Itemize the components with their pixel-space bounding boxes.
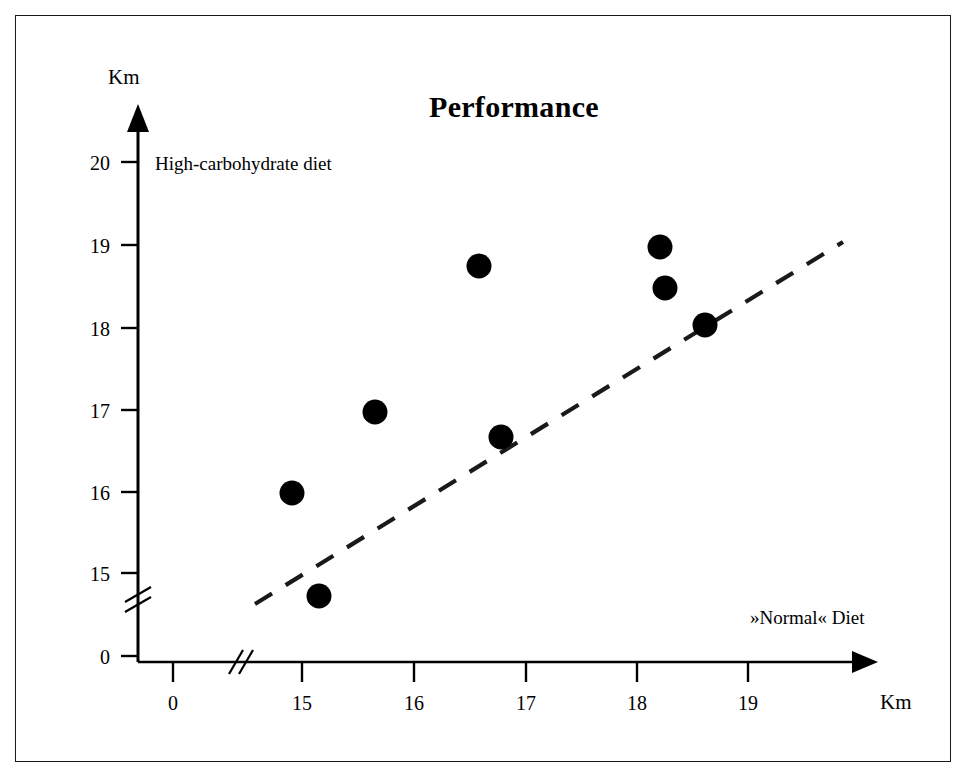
data-point: [648, 235, 673, 260]
y-tick-label-18: 18: [70, 318, 110, 341]
y-tick-label-17: 17: [70, 400, 110, 423]
data-point: [693, 313, 718, 338]
x-axis-ticks: [173, 662, 748, 682]
x-tick-label-15: 15: [282, 692, 322, 715]
figure-container: Performance Km Km High-carbohydrate diet…: [0, 0, 965, 779]
data-point: [467, 254, 492, 279]
data-point: [653, 276, 678, 301]
y-tick-label-0: 0: [70, 646, 110, 669]
y-tick-label-15: 15: [70, 563, 110, 586]
y-tick-label-20: 20: [70, 152, 110, 175]
data-point: [307, 584, 332, 609]
y-axis-title: Km: [108, 67, 140, 88]
data-point: [489, 425, 514, 450]
x-axis-title: Km: [880, 692, 912, 713]
x-tick-label-16: 16: [394, 692, 434, 715]
x-tick-label-0: 0: [153, 692, 193, 715]
page-title: Performance: [429, 92, 599, 122]
scatter-points: [280, 235, 718, 609]
y-axis-ticks: [121, 162, 138, 656]
x-tick-label-19: 19: [728, 692, 768, 715]
arrow-up-icon: [127, 104, 149, 132]
annotation-high-carbohydrate-diet: High-carbohydrate diet: [155, 154, 332, 173]
arrow-right-icon: [852, 651, 878, 673]
data-point: [280, 481, 305, 506]
data-point: [363, 400, 388, 425]
y-tick-label-19: 19: [70, 235, 110, 258]
reference-line: [255, 242, 843, 604]
x-tick-label-17: 17: [506, 692, 546, 715]
x-tick-label-18: 18: [617, 692, 657, 715]
y-tick-label-16: 16: [70, 482, 110, 505]
annotation-normal-diet: »Normal« Diet: [750, 608, 865, 627]
